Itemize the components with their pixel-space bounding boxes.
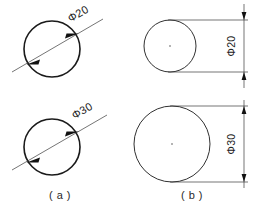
dimension-label-phi30: Φ30: [225, 134, 237, 155]
panel-a-item-phi20: Φ20: [12, 3, 103, 77]
technical-drawing-sheet: Φ20 Φ30 ( a ): [0, 0, 256, 213]
panel-a-item-phi30: Φ30: [12, 100, 107, 175]
dimension-label-phi30: Φ30: [70, 100, 95, 121]
center-mark-dot: [169, 45, 171, 47]
dimension-label-phi20: Φ20: [225, 36, 237, 57]
diameter-dimension-line: [12, 19, 103, 72]
panel-a: Φ20 Φ30 ( a ): [12, 3, 107, 201]
center-mark-dot: [171, 143, 173, 145]
dimension-arrowhead-top: [242, 106, 247, 114]
panel-b-item-phi30: Φ30: [134, 100, 248, 188]
panel-b-item-phi20: Φ20: [144, 4, 248, 88]
dimension-arrowhead-top: [242, 12, 247, 20]
panel-a-caption: ( a ): [49, 189, 71, 201]
panel-b: Φ20 Φ30 ( b ): [134, 4, 248, 201]
diameter-dimension-line: [12, 115, 107, 170]
drawing-canvas: Φ20 Φ30 ( a ): [0, 0, 256, 213]
dimension-arrowhead-bottom: [242, 174, 247, 182]
dimension-label-phi20: Φ20: [66, 3, 91, 24]
dimension-arrowhead-bottom: [242, 72, 247, 80]
panel-b-caption: ( b ): [181, 189, 203, 201]
